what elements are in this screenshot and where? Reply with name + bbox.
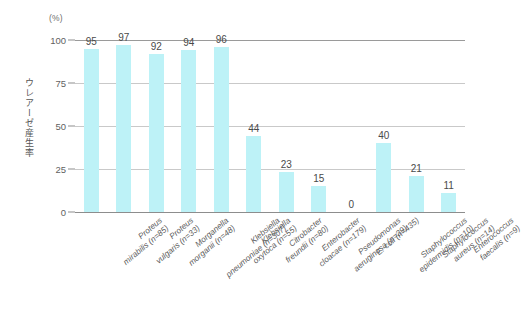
- y-axis-tick-mark: [68, 40, 75, 41]
- y-axis-tick-label: 75: [36, 78, 66, 89]
- bar-value-label: 44: [248, 123, 259, 134]
- bar-value-label: 21: [411, 163, 422, 174]
- bar: [279, 172, 294, 212]
- bar-value-label: 11: [444, 180, 454, 191]
- bar: [376, 143, 391, 212]
- bar-value-label: 94: [183, 37, 194, 48]
- bar-value-label: 96: [216, 34, 227, 45]
- bar-value-label: 92: [151, 41, 162, 52]
- bar: [409, 176, 424, 212]
- y-axis-tick-mark: [68, 169, 75, 170]
- bar: [116, 45, 131, 212]
- y-axis-tick-label: 100: [36, 35, 66, 46]
- y-axis-tick-label: 25: [36, 164, 66, 175]
- bar-value-label: 15: [313, 173, 324, 184]
- y-axis-tick-mark: [68, 126, 75, 127]
- bar: [311, 186, 326, 212]
- bar-value-label: 97: [118, 32, 129, 43]
- gridline: [75, 83, 465, 84]
- x-axis-baseline: [75, 212, 465, 213]
- bar: [441, 193, 456, 212]
- plot-area: 95979294964423150402111: [75, 40, 465, 212]
- bar: [214, 47, 229, 212]
- y-axis-tick-label: 0: [36, 207, 66, 218]
- bar-value-label: 0: [348, 199, 354, 210]
- gridline: [75, 126, 465, 127]
- y-axis-tick-mark: [68, 83, 75, 84]
- bar: [181, 50, 196, 212]
- bar: [149, 54, 164, 212]
- bar-value-label: 95: [86, 36, 97, 47]
- bar-value-label: 40: [378, 130, 389, 141]
- y-axis-tick-label: 50: [36, 121, 66, 132]
- gridline: [75, 169, 465, 170]
- bar: [84, 49, 99, 212]
- y-axis-tick-mark: [68, 212, 75, 213]
- bar: [246, 136, 261, 212]
- y-axis-title: ウレアーゼ産生率: [22, 78, 36, 158]
- gridline: [75, 40, 465, 41]
- y-axis-unit-label: (%): [49, 13, 63, 23]
- bar-value-label: 23: [281, 159, 292, 170]
